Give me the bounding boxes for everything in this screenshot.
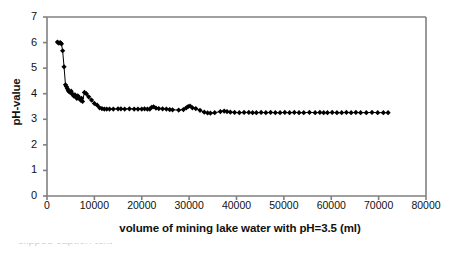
- data-point-marker: [381, 110, 386, 115]
- data-point-marker: [263, 110, 268, 115]
- data-point-marker: [369, 110, 374, 115]
- data-point-marker: [254, 110, 259, 115]
- chart-figure: pH-value volume of mining lake water wit…: [0, 0, 460, 253]
- data-point-marker: [282, 110, 287, 115]
- data-point-marker: [353, 110, 358, 115]
- plot-area: [0, 0, 460, 253]
- x-tick-label: 60000: [317, 200, 346, 211]
- y-axis-title: pH-value: [10, 62, 22, 142]
- y-tick-label: 1: [11, 164, 37, 175]
- data-point-marker: [339, 110, 344, 115]
- x-tick-label: 10000: [80, 200, 109, 211]
- y-tick-label: 4: [11, 88, 37, 99]
- data-point-marker: [127, 106, 132, 111]
- data-point-marker: [386, 110, 391, 115]
- y-tick-label: 0: [11, 190, 37, 201]
- data-point-marker: [268, 110, 273, 115]
- x-tick-label: 0: [44, 200, 50, 211]
- data-point-marker: [232, 110, 237, 115]
- data-point-marker: [60, 48, 65, 53]
- data-point-marker: [292, 110, 297, 115]
- x-tick-label: 30000: [175, 200, 204, 211]
- data-point-marker: [122, 106, 127, 111]
- data-point-marker: [237, 110, 242, 115]
- series-line: [57, 42, 388, 113]
- data-point-marker: [325, 110, 330, 115]
- data-point-marker: [334, 110, 339, 115]
- y-tick-label: 3: [11, 113, 37, 124]
- data-point-marker: [313, 110, 318, 115]
- series-markers: [55, 39, 391, 115]
- x-tick-label: 50000: [269, 200, 298, 211]
- data-point-marker: [296, 110, 301, 115]
- data-point-marker: [61, 64, 66, 69]
- data-point-marker: [241, 110, 246, 115]
- clipped-caption-text: clipped caption text: [18, 243, 112, 246]
- data-point-marker: [277, 110, 282, 115]
- data-point-marker: [358, 110, 363, 115]
- data-point-marker: [344, 110, 349, 115]
- data-point-marker: [375, 110, 380, 115]
- data-point-marker: [212, 110, 217, 115]
- y-tick-label: 2: [11, 139, 37, 150]
- y-tick-label: 6: [11, 37, 37, 48]
- data-point-marker: [111, 106, 116, 111]
- x-tick-label: 70000: [364, 200, 393, 211]
- data-point-marker: [273, 110, 278, 115]
- x-tick-label: 40000: [222, 200, 251, 211]
- data-point-marker: [287, 110, 292, 115]
- x-axis-title: volume of mining lake water with pH=3.5 …: [40, 222, 440, 234]
- clipped-caption-strip: clipped caption text: [0, 243, 460, 253]
- y-tick-label: 5: [11, 62, 37, 73]
- x-tick-label: 20000: [127, 200, 156, 211]
- data-point-marker: [364, 110, 369, 115]
- data-point-marker: [259, 110, 264, 115]
- y-tick-label: 7: [11, 11, 37, 22]
- data-point-marker: [301, 110, 306, 115]
- data-point-marker: [349, 110, 354, 115]
- data-point-marker: [176, 107, 181, 112]
- data-point-marker: [228, 110, 233, 115]
- x-tick-label: 80000: [411, 200, 440, 211]
- data-point-marker: [330, 110, 335, 115]
- data-point-marker: [307, 110, 312, 115]
